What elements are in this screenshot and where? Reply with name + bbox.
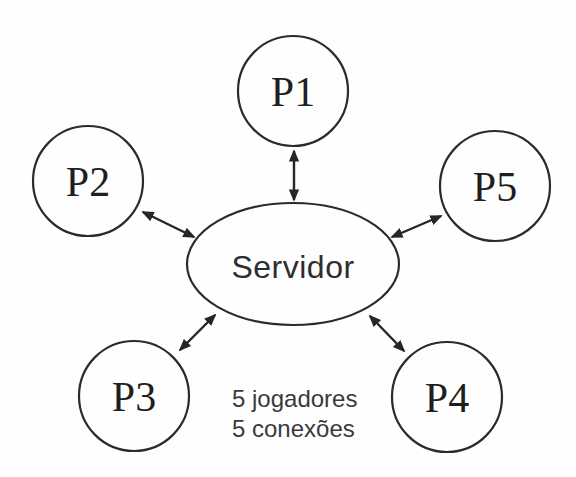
player-label-p5: P5 bbox=[473, 164, 517, 210]
connection-p3-server bbox=[180, 315, 215, 350]
player-label-p2: P2 bbox=[66, 159, 110, 205]
annotation-connections-count: 5 conexões bbox=[232, 415, 355, 442]
annotation-players-count: 5 jogadores bbox=[232, 385, 357, 412]
player-label-p1: P1 bbox=[271, 69, 315, 115]
star-topology-diagram: Servidor P1 P2 P3 P4 P5 5 jogadores 5 co… bbox=[0, 0, 576, 477]
diagram-canvas: Servidor P1 P2 P3 P4 P5 5 jogadores 5 co… bbox=[0, 0, 576, 477]
connection-p2-server bbox=[143, 212, 194, 237]
connection-p4-server bbox=[370, 316, 404, 351]
player-label-p3: P3 bbox=[112, 374, 156, 420]
server-label: Servidor bbox=[231, 249, 354, 285]
player-label-p4: P4 bbox=[425, 375, 469, 421]
connection-p5-server bbox=[392, 216, 441, 237]
